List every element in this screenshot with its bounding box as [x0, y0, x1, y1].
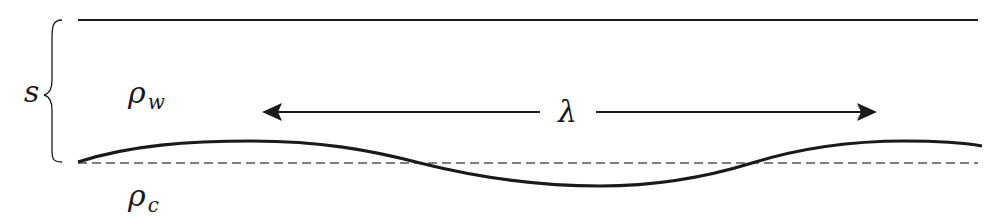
thickness-label: s — [24, 74, 39, 109]
diagram-canvas: s ρw ρc λ — [0, 0, 1008, 220]
wavelength-label: λ — [557, 94, 577, 129]
thickness-brace-icon — [44, 20, 62, 162]
rho-lower-label: ρc — [127, 178, 159, 217]
rho-upper-label: ρw — [127, 75, 165, 114]
